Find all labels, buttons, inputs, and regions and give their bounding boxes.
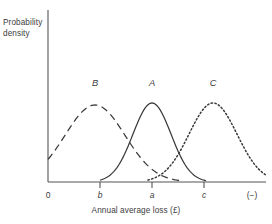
- y-axis-label: Probability density: [3, 18, 51, 39]
- density-curve-A: [100, 103, 206, 181]
- x-tick-label-c: c: [194, 190, 214, 200]
- x-tick-label-a: a: [142, 190, 162, 200]
- curve-label-A: A: [142, 78, 162, 88]
- curve-label-B: B: [85, 78, 105, 88]
- x-tick-label-: (−): [242, 190, 262, 200]
- density-curve-B: [48, 105, 180, 181]
- axis-group: [48, 10, 266, 182]
- probability-density-chart: Probability density Annual average loss …: [0, 0, 272, 224]
- x-axis-label: Annual average loss (£): [0, 206, 272, 217]
- density-curve-C: [148, 103, 266, 180]
- curve-label-C: C: [203, 78, 223, 88]
- curves-group: [48, 103, 266, 181]
- tick-marks-group: [100, 182, 204, 188]
- x-tick-label-0: 0: [38, 190, 58, 200]
- x-tick-label-b: b: [90, 190, 110, 200]
